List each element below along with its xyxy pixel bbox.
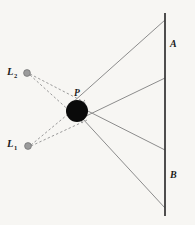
light-source-1-subscript: 1 bbox=[13, 144, 17, 151]
occluding-sphere bbox=[66, 100, 88, 122]
light-source-1-dot bbox=[25, 143, 32, 150]
light-source-2-dot bbox=[24, 70, 31, 77]
optics-shadow-diagram: L2 L1 P A B bbox=[0, 0, 195, 225]
diagram-canvas bbox=[0, 0, 195, 225]
region-a-label: A bbox=[170, 39, 177, 49]
light-source-1-label: L1 bbox=[7, 139, 17, 152]
region-b-label: B bbox=[170, 170, 177, 180]
light-source-2-subscript: 2 bbox=[13, 72, 17, 79]
point-p-label: P bbox=[74, 89, 80, 99]
light-source-2-label: L2 bbox=[7, 67, 17, 80]
